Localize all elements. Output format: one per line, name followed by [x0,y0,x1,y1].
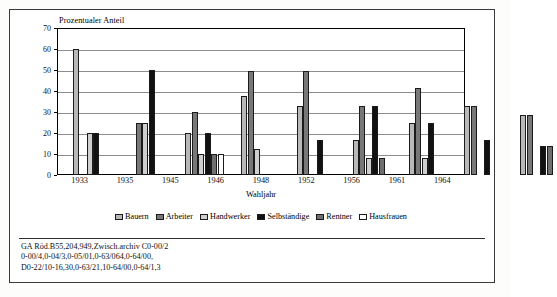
x-axis-tick: 1964 [420,176,465,190]
y-axis-tick: 0 [47,171,51,180]
plot-area [57,28,465,175]
y-axis-tick-mark [54,28,57,29]
y-axis-tick: 40 [43,87,51,96]
legend-item[interactable]: Arbeiter [156,212,193,221]
bar [464,106,470,175]
y-axis-tick-mark [54,91,57,92]
x-axis-tick: 1952 [284,176,329,190]
chart-legend: BauernArbeiterHandwerkerSelbständigeRent… [57,212,465,221]
legend-swatch-icon [156,214,164,220]
gridline [58,92,464,93]
y-axis-tick-mark [54,112,57,113]
bar [471,106,477,175]
x-axis-tick-labels: 193319351945194619481952195619611964 [57,176,465,190]
y-axis-tick-mark [54,133,57,134]
legend-item[interactable]: Hausfrauen [359,212,407,221]
bar-group [504,28,557,175]
legend-item[interactable]: Rentner [316,212,352,221]
legend-label: Hausfrauen [369,212,407,221]
legend-swatch-icon [359,214,367,220]
x-axis-tick: 1948 [238,176,283,190]
legend-label: Arbeiter [166,212,193,221]
legend-item[interactable]: Selbständige [257,212,309,221]
x-axis-tick: 1935 [102,176,147,190]
gridline [58,113,464,114]
source-note-line: D0-22/10-16,30,0-63/21,10-64/00,0-64/1,3 [21,263,481,273]
y-axis-tick: 70 [43,24,51,33]
x-axis-label: Wahljahr [57,190,465,199]
source-note-line: GA Röd.B55,204,949,Zwisch.archiv C0-00/2 [21,242,481,252]
bar [527,115,533,175]
gridline [58,155,464,156]
bar-chart: Prozentualer Anteil 010203040506070 1933… [19,16,483,244]
gridline [58,50,464,51]
plot-background [57,28,465,175]
x-axis-tick: 1933 [57,176,102,190]
y-axis-tick-mark [54,70,57,71]
legend-label: Rentner [326,212,352,221]
x-axis-tick: 1961 [374,176,419,190]
y-axis-tick-mark [54,49,57,50]
x-axis-tick: 1945 [148,176,193,190]
legend-label: Bauern [125,212,149,221]
source-note-line: 0-00/4,0-04/3,0-05/01,0-63/064,0-64/00, [21,252,481,262]
legend-swatch-icon [257,214,265,220]
footer-divider [19,238,485,239]
legend-swatch-icon [200,214,208,220]
y-axis-tick-mark [54,154,57,155]
bar [484,140,490,175]
bar [520,115,526,175]
legend-item[interactable]: Bauern [115,212,149,221]
y-axis-label: Prozentualer Anteil [59,16,124,25]
y-axis-tick: 30 [43,108,51,117]
y-axis-tick-mark [54,175,57,176]
legend-swatch-icon [115,214,123,220]
source-note: GA Röd.B55,204,949,Zwisch.archiv C0-00/2… [21,242,481,273]
gridline [58,71,464,72]
legend-item[interactable]: Handwerker [200,212,250,221]
bar [540,146,546,175]
figure-frame: Prozentualer Anteil 010203040506070 1933… [9,9,495,283]
x-axis-tick: 1946 [193,176,238,190]
legend-label: Selbständige [267,212,309,221]
y-axis-tick: 20 [43,129,51,138]
bar [547,146,553,175]
gridline [58,134,464,135]
legend-swatch-icon [316,214,324,220]
y-axis-tick: 10 [43,150,51,159]
y-axis-tick: 60 [43,45,51,54]
legend-label: Handwerker [210,212,250,221]
x-axis-tick: 1956 [329,176,374,190]
y-axis-tick: 50 [43,66,51,75]
y-axis-tick-labels: 010203040506070 [19,28,51,175]
